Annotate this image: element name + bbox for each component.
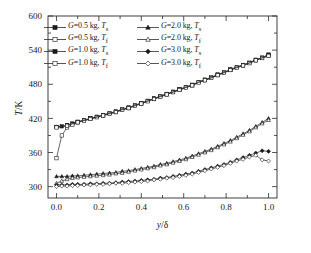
legend-symbol: [44, 59, 66, 68]
series-line: [56, 120, 268, 183]
legend-label: G=2.0 kg, Ts: [161, 22, 201, 32]
data-marker: [55, 156, 58, 159]
series-line: [56, 118, 268, 176]
filled-diamond-marker-icon: [137, 47, 159, 56]
data-marker: [178, 88, 181, 91]
data-series-layer: [54, 53, 270, 189]
legend-symbol: [44, 35, 66, 44]
data-marker: [76, 121, 79, 124]
legend-label: G=3.0 kg, Ts: [161, 46, 201, 56]
legend-label: G=3.0 kg, Tf: [161, 59, 201, 69]
data-marker: [53, 49, 57, 53]
data-marker: [53, 37, 57, 41]
series-line: [56, 151, 268, 185]
data-marker: [140, 102, 143, 105]
data-marker: [203, 79, 206, 82]
y-tick-label: 420: [29, 114, 43, 124]
legend-symbol: [44, 23, 66, 32]
data-marker: [260, 149, 264, 153]
x-tick-label: 0.0: [51, 202, 63, 212]
legend-item[interactable]: G=2.0 kg, Ts: [137, 22, 230, 32]
legend-label: G=0.5 kg, Tf: [68, 34, 108, 44]
x-tick-label: 1.0: [263, 202, 275, 212]
legend-symbol: [137, 47, 159, 56]
data-marker: [266, 149, 270, 153]
data-series: [54, 153, 270, 188]
legend-label: G=1.0 kg, Tf: [68, 59, 108, 69]
filled-square-marker-icon: [44, 47, 66, 56]
y-tick-label: 480: [29, 79, 43, 89]
data-marker: [65, 124, 68, 127]
data-marker: [89, 117, 92, 120]
legend-symbol: [137, 35, 159, 44]
data-marker: [241, 64, 244, 67]
legend-item[interactable]: G=1.0 kg, Tf: [44, 59, 137, 69]
data-marker: [127, 106, 130, 109]
temperature-profile-chart: 3003604204805406000.00.20.40.60.81.0T/Ky…: [0, 0, 311, 253]
data-marker: [145, 49, 150, 54]
y-tick-label: 360: [29, 148, 43, 158]
series-line: [56, 56, 268, 158]
data-marker: [55, 126, 58, 129]
open-square-marker-icon: [44, 35, 66, 44]
legend-label: G=1.0 kg, Ts: [68, 46, 108, 56]
data-marker: [145, 61, 150, 66]
open-diamond-marker-icon: [137, 59, 159, 68]
data-marker: [190, 84, 193, 87]
chart-legend: G=0.5 kg, TsG=2.0 kg, TsG=0.5 kg, TfG=2.…: [44, 21, 230, 71]
data-series: [55, 116, 271, 177]
legend-symbol: [137, 23, 159, 32]
data-marker: [266, 159, 270, 163]
y-tick-label: 540: [29, 45, 43, 55]
data-marker: [254, 59, 257, 62]
filled-triangle-marker-icon: [137, 23, 159, 32]
open-square-marker-icon: [44, 59, 66, 68]
x-tick-label: 0.8: [220, 202, 232, 212]
y-tick-label: 600: [29, 11, 43, 21]
data-marker: [114, 110, 117, 113]
legend-item[interactable]: G=1.0 kg, Ts: [44, 46, 137, 56]
x-tick-label: 0.6: [178, 202, 190, 212]
data-marker: [267, 54, 270, 57]
data-marker: [53, 62, 57, 66]
legend-label: G=2.0 kg, Tf: [161, 34, 201, 44]
open-triangle-marker-icon: [137, 35, 159, 44]
legend-symbol: [44, 47, 66, 56]
y-axis-title: T/K: [14, 100, 24, 115]
data-series: [54, 149, 270, 187]
legend-item[interactable]: G=2.0 kg, Tf: [137, 34, 230, 44]
legend-item[interactable]: G=3.0 kg, Ts: [137, 46, 230, 56]
data-marker: [60, 134, 63, 137]
filled-square-marker-icon: [44, 23, 66, 32]
data-marker: [216, 73, 219, 76]
legend-symbol: [137, 59, 159, 68]
legend-label: G=0.5 kg, Ts: [68, 22, 108, 32]
legend-item[interactable]: G=0.5 kg, Tf: [44, 34, 137, 44]
x-axis-title: y/δ: [156, 220, 169, 230]
legend-item[interactable]: G=3.0 kg, Tf: [137, 59, 230, 69]
data-marker: [165, 93, 168, 96]
legend-item[interactable]: G=0.5 kg, Ts: [44, 22, 137, 32]
x-tick-label: 0.4: [136, 202, 148, 212]
data-marker: [101, 114, 104, 117]
y-tick-label: 300: [29, 182, 43, 192]
x-tick-label: 0.2: [93, 202, 104, 212]
data-marker: [53, 25, 57, 29]
data-marker: [152, 97, 155, 100]
